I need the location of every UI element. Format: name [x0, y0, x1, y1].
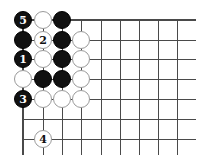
white-stone: [34, 90, 52, 108]
white-stone: [53, 90, 71, 108]
white-stone: [14, 70, 32, 88]
grid-line-vertical: [139, 20, 140, 155]
black-stone-move-5: 5: [14, 11, 32, 29]
white-stone-move-2: 2: [34, 31, 52, 49]
move-number: 2: [39, 35, 47, 46]
grid-line-vertical: [101, 20, 102, 155]
go-board-diagram: 52134: [0, 0, 211, 166]
move-number: 5: [19, 15, 27, 26]
white-stone: [72, 90, 90, 108]
black-stone: [53, 50, 71, 68]
white-stone: [72, 31, 90, 49]
grid-line-vertical: [158, 20, 159, 155]
black-stone: [14, 31, 32, 49]
grid-line-horizontal: [23, 119, 196, 120]
white-stone: [34, 11, 52, 29]
grid-line-vertical: [120, 20, 121, 155]
move-number: 4: [39, 134, 47, 145]
black-stone-move-1: 1: [14, 50, 32, 68]
white-stone: [72, 50, 90, 68]
white-stone: [34, 50, 52, 68]
move-number: 1: [19, 54, 27, 65]
black-stone: [53, 11, 71, 29]
grid-line-vertical: [177, 20, 178, 155]
black-stone: [53, 31, 71, 49]
black-stone: [34, 70, 52, 88]
white-stone: [72, 70, 90, 88]
black-stone: [53, 70, 71, 88]
white-stone-move-4: 4: [34, 130, 52, 148]
move-number: 3: [19, 94, 27, 105]
black-stone-move-3: 3: [14, 90, 32, 108]
